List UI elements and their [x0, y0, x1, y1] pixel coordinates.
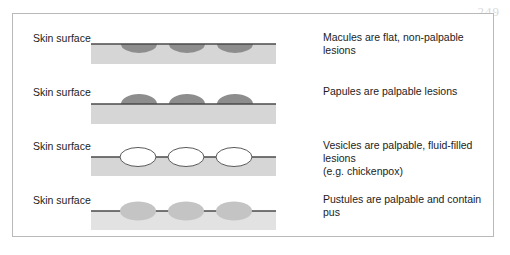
papule-diagram [91, 82, 276, 124]
vesicle-caption: Vesicles are palpable, fluid-filled lesi… [323, 139, 495, 178]
pustule-caption-line1: Pustules are palpable and contain pus [323, 193, 481, 218]
skin-surface-label: Skin surface [33, 86, 91, 98]
figure-panel: Skin surface Macules are flat, non-palpa… [12, 13, 494, 237]
lesion-row-macules: Skin surface Macules are flat, non-palpa… [13, 22, 493, 78]
skin-surface-label: Skin surface [33, 32, 91, 44]
macule-caption: Macules are flat, non-palpable lesions [323, 31, 495, 57]
lesion-row-papules: Skin surface Papules are palpable lesion… [13, 76, 493, 132]
vesicle-caption-line1: Vesicles are palpable, fluid-filled lesi… [323, 139, 472, 164]
vesicle-diagram [91, 136, 276, 178]
skin-surface-label: Skin surface [33, 140, 91, 152]
macule-caption-line1: Macules are flat, non-palpable lesions [323, 31, 464, 56]
skin-lesion-figure: 249 Skin surface Macules are flat, non-p… [0, 0, 510, 255]
lesion-row-pustules: Skin surface Pustules are palpable and c… [13, 184, 493, 240]
macule-diagram [91, 28, 276, 70]
pustule-diagram [91, 190, 276, 232]
skin-surface-label: Skin surface [33, 194, 91, 206]
papule-caption-line1: Papules are palpable lesions [323, 85, 457, 97]
pustule-caption: Pustules are palpable and contain pus [323, 193, 495, 219]
papule-caption: Papules are palpable lesions [323, 85, 495, 98]
lesion-row-vesicles: Skin surface Vesicles are palpable, flui… [13, 130, 493, 186]
vesicle-caption-line2: (e.g. chickenpox) [323, 165, 495, 178]
